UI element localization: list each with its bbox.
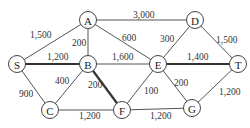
node-label: F: [119, 105, 125, 117]
node-label: S: [14, 59, 20, 71]
node-c: C: [42, 102, 59, 119]
edge-weight-label: 1,200: [150, 111, 172, 121]
node-b: B: [80, 56, 97, 73]
node-a: A: [80, 12, 97, 29]
edge-weight-label: 200: [88, 80, 103, 90]
node-label: B: [84, 59, 91, 71]
edge-weight-label: 1,400: [187, 52, 209, 62]
edge-weight-label: 400: [55, 76, 70, 86]
node-label: E: [155, 59, 162, 71]
node-label: A: [84, 15, 92, 27]
weighted-graph-diagram: 1,5003,0002006003001,5001,2001,6001,4009…: [0, 0, 250, 128]
node-t: T: [230, 56, 247, 73]
node-e: E: [150, 56, 167, 73]
edge-weight-label: 600: [122, 33, 137, 43]
node-label: T: [235, 59, 242, 71]
edge-weight-label: 3,000: [133, 10, 155, 20]
edge-weight-label: 200: [174, 78, 189, 88]
node-d: D: [187, 12, 204, 29]
edge-weight-label: 300: [160, 34, 175, 44]
edge-f-g: [122, 108, 192, 110]
edge-weight-label: 1,200: [219, 87, 241, 97]
edge-g-t: [192, 64, 238, 108]
node-label: D: [191, 15, 199, 27]
node-g: G: [184, 100, 201, 117]
node-f: F: [114, 102, 131, 119]
node-label: G: [188, 103, 196, 115]
edge-weight-label: 1,500: [30, 30, 52, 40]
edge-weight-label: 1,500: [216, 35, 238, 45]
edge-weight-label: 1,200: [79, 111, 101, 121]
edge-weight-label: 200: [72, 38, 87, 48]
edge-weight-label: 1,200: [47, 52, 69, 62]
edge-weight-label: 900: [19, 89, 34, 99]
edge-weight-label: 1,600: [112, 52, 134, 62]
edge-weight-label: 100: [144, 86, 159, 96]
node-s: S: [9, 56, 26, 73]
node-label: C: [46, 105, 53, 117]
